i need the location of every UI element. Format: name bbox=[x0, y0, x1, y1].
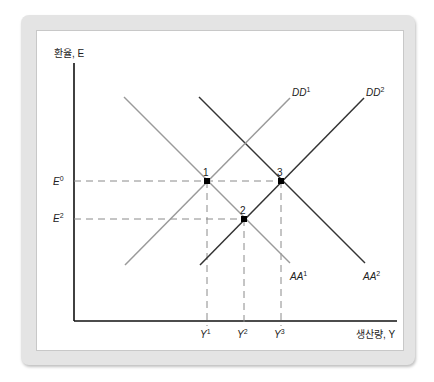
y-axis-label: 환율, E bbox=[54, 48, 85, 59]
equilibrium-point-3 bbox=[278, 178, 284, 184]
dd1-label: DD1 bbox=[292, 86, 310, 98]
point-label-1: 1 bbox=[203, 167, 209, 178]
dd2-label: DD2 bbox=[366, 86, 384, 98]
aa2-label: AA2 bbox=[362, 270, 380, 282]
y-tick-e2: E2 bbox=[53, 212, 64, 224]
dashed-guides bbox=[74, 181, 281, 326]
point-label-2: 2 bbox=[240, 205, 246, 216]
aa1-label: AA1 bbox=[289, 270, 307, 282]
y-tick-e0: E0 bbox=[53, 175, 64, 187]
x-tick-y3: Y3 bbox=[274, 328, 285, 340]
x-axis-label: 생산량, Y bbox=[356, 329, 396, 340]
equilibrium-point-1 bbox=[204, 178, 210, 184]
x-tick-y1: Y1 bbox=[200, 328, 211, 340]
dd-aa-diagram: 1 2 3 환율, E E0 E2 Y1 Y2 Y3 생산량, Y DD1 DD… bbox=[0, 0, 434, 382]
equilibrium-point-2 bbox=[241, 216, 247, 222]
x-tick-y2: Y2 bbox=[237, 328, 248, 340]
point-label-3: 3 bbox=[277, 167, 283, 178]
